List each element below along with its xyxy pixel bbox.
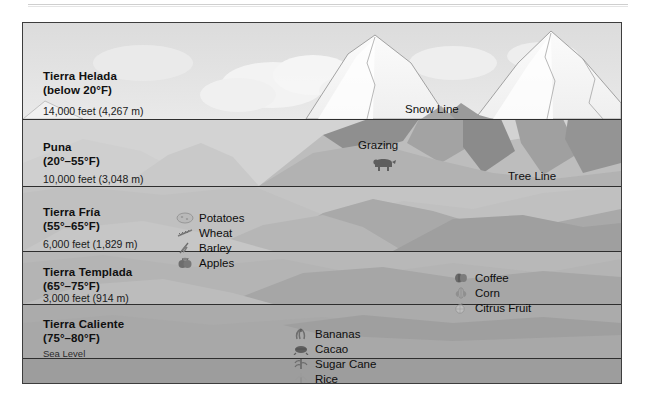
elevation-10000ft: 10,000 feet (3,048 m) xyxy=(43,173,143,185)
crop-item-corn: Corn xyxy=(451,286,531,300)
crop-item-citrus: Citrus Fruit xyxy=(451,301,531,315)
zone-label-tierra-fria: Tierra Fría (55°–65°F) xyxy=(43,206,100,233)
crop-item-barley: Barley xyxy=(175,241,244,255)
citrus-icon xyxy=(451,302,471,315)
sugarcane-icon xyxy=(291,358,311,371)
page-top-rule-secondary xyxy=(28,6,628,7)
zone-name-puna: Puna xyxy=(43,141,72,153)
crop-name: Bananas xyxy=(315,328,360,341)
crop-name: Coffee xyxy=(475,272,509,285)
zone-name-tierra-helada: Tierra Helada xyxy=(43,70,117,82)
zone-temp-puna: (20°–55°F) xyxy=(43,155,100,169)
page-root: Tierra Helada (below 20°F) 14,000 feet (… xyxy=(0,0,658,400)
zone-temp-tierra-fria: (55°–65°F) xyxy=(43,220,100,234)
zone-name-tierra-fria: Tierra Fría xyxy=(43,206,100,218)
crop-item-potatoes: Potatoes xyxy=(175,211,244,225)
crop-name: Cacao xyxy=(315,343,348,356)
zone-name-tierra-caliente: Tierra Caliente xyxy=(43,318,124,330)
cacao-icon xyxy=(291,343,311,356)
zone-label-puna: Puna (20°–55°F) xyxy=(43,141,100,168)
rice-icon xyxy=(291,373,311,385)
crop-list-tierra-caliente: Bananas Cacao Sugar Cane Rice xyxy=(291,327,376,384)
zone-label-tierra-helada: Tierra Helada (below 20°F) xyxy=(43,70,117,97)
snow-line-rule xyxy=(23,119,621,120)
diagram-frame: Tierra Helada (below 20°F) 14,000 feet (… xyxy=(22,22,622,384)
crop-name: Rice xyxy=(315,373,338,385)
wheat-icon xyxy=(175,227,195,240)
crop-list-tierra-fria: Potatoes Wheat Barley Apples xyxy=(175,211,244,271)
coffee-icon xyxy=(451,272,471,285)
grazing-sheep-icon xyxy=(371,156,397,174)
grazing-label: Grazing xyxy=(358,139,398,151)
crop-name: Sugar Cane xyxy=(315,358,376,371)
zone-temp-tierra-templada: (65°–75°F) xyxy=(43,280,132,294)
corn-icon xyxy=(451,287,471,300)
crop-item-cacao: Cacao xyxy=(291,342,376,356)
elevation-6000ft: 6,000 feet (1,829 m) xyxy=(43,238,138,250)
crop-name: Apples xyxy=(199,257,234,270)
barley-icon xyxy=(175,242,195,255)
crop-item-apples: Apples xyxy=(175,256,244,270)
crop-item-rice: Rice xyxy=(291,372,376,384)
crop-item-wheat: Wheat xyxy=(175,226,244,240)
apple-icon xyxy=(175,257,195,270)
frame-shadow xyxy=(621,26,622,384)
zone-temp-tierra-caliente: (75°–80°F) xyxy=(43,332,124,346)
tree-line-rule xyxy=(23,186,621,187)
elevation-14000ft: 14,000 feet (4,267 m) xyxy=(43,105,143,117)
zone-label-tierra-caliente: Tierra Caliente (75°–80°F) xyxy=(43,318,124,345)
six-thousand-foot-rule xyxy=(23,251,621,252)
elevation-3000ft: 3,000 feet (914 m) xyxy=(43,292,129,304)
zone-label-tierra-templada: Tierra Templada (65°–75°F) xyxy=(43,266,132,293)
cloud-icon xyxy=(409,46,497,80)
tree-line-label: Tree Line xyxy=(508,170,556,182)
crop-name: Wheat xyxy=(199,227,232,240)
snow-line-label: Snow Line xyxy=(405,103,459,115)
crop-item-bananas: Bananas xyxy=(291,327,376,341)
potato-icon xyxy=(175,212,195,225)
three-thousand-foot-rule xyxy=(23,304,621,305)
cloud-icon xyxy=(200,78,276,112)
crop-name: Potatoes xyxy=(199,212,244,225)
crop-name: Barley xyxy=(199,242,232,255)
crop-list-tierra-templada: Coffee Corn Citrus Fruit xyxy=(451,271,531,316)
elevation-sea-level: Sea Level xyxy=(43,348,85,359)
banana-icon xyxy=(291,328,311,341)
zone-temp-tierra-helada: (below 20°F) xyxy=(43,84,117,98)
crop-item-coffee: Coffee xyxy=(451,271,531,285)
crop-name: Corn xyxy=(475,287,500,300)
zone-name-tierra-templada: Tierra Templada xyxy=(43,266,132,278)
crop-item-sugarcane: Sugar Cane xyxy=(291,357,376,371)
page-top-rule xyxy=(28,4,628,5)
crop-name: Citrus Fruit xyxy=(475,302,531,315)
